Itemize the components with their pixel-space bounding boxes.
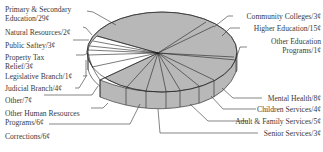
pie-top xyxy=(87,12,237,92)
label-property-tax: Property Tax Relief/3¢ xyxy=(5,53,44,71)
label-community-colleges: Community Colleges/3¢ xyxy=(247,12,321,21)
label-corrections: Corrections/6¢ xyxy=(5,132,50,141)
label-line: Primary & Secondary xyxy=(5,5,71,14)
label-higher-education: Higher Education/15¢ xyxy=(254,24,321,33)
label-line: Programs/1¢ xyxy=(271,46,321,55)
label-public-saftey: Public Saftey/3¢ xyxy=(5,41,55,50)
label-line: Programs/6¢ xyxy=(5,118,80,127)
label-legislative: Legislative Branch/1¢ xyxy=(5,72,72,81)
label-primary-secondary: Primary & Secondary Education/29¢ xyxy=(5,5,71,23)
label-natural-resources: Natural Resources/2¢ xyxy=(5,28,71,37)
label-senior: Senior Services/3¢ xyxy=(264,129,321,138)
label-line: Relief/3¢ xyxy=(5,62,44,71)
label-mental-health: Mental Health/8¢ xyxy=(268,94,321,103)
label-other-education: Other Education Programs/1¢ xyxy=(271,37,321,55)
label-line: Property Tax xyxy=(5,53,44,62)
label-children: Children Services/4¢ xyxy=(257,105,321,114)
label-judicial: Judicial Branch/4¢ xyxy=(5,84,62,93)
label-other-hr: Other Human Resources Programs/6¢ xyxy=(5,109,80,127)
label-other: Other/7¢ xyxy=(5,96,32,105)
label-line: Education/29¢ xyxy=(5,14,71,23)
label-line: Other Education xyxy=(271,37,321,46)
label-adult-family: Adult & Family Services/5¢ xyxy=(235,117,321,126)
label-line: Other Human Resources xyxy=(5,109,80,118)
